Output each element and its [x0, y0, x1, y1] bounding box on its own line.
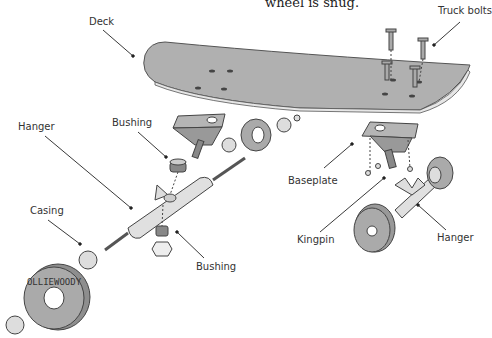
label-bushing-top: Bushing: [112, 117, 152, 128]
bottom-bearing-illustration: [6, 316, 24, 334]
left-top-wheel-illustration: [222, 115, 300, 152]
label-kingpin: Kingpin: [297, 234, 335, 245]
wheel-brand-text: OLLIEWOODY: [27, 277, 82, 287]
casing-bearing-illustration: [79, 251, 97, 269]
left-bottom-wheel-illustration: OLLIEWOODY: [24, 264, 90, 330]
label-hanger-right: Hanger: [437, 232, 474, 243]
label-hanger-left: Hanger: [18, 121, 55, 132]
right-baseplate-illustration: [362, 122, 418, 176]
left-baseplate-illustration: [173, 114, 225, 158]
label-baseplate: Baseplate: [288, 175, 338, 186]
label-casing: Casing: [30, 205, 64, 216]
label-deck: Deck: [89, 16, 114, 27]
label-truck-bolts: Truck bolts: [438, 5, 492, 16]
label-bushing-bottom: Bushing: [196, 261, 236, 272]
